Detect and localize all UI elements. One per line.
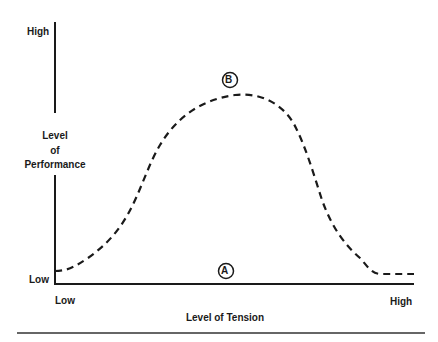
performance-curve [55, 95, 414, 274]
x-tick-high: High [390, 296, 412, 307]
y-tick-low: Low [29, 274, 49, 285]
y-tick-high: High [27, 26, 49, 37]
y-axis-label-line2: of [15, 145, 95, 156]
x-axis-label: Level of Tension [160, 312, 290, 323]
marker-a-label: A [221, 265, 231, 276]
x-tick-low: Low [55, 295, 75, 306]
y-axis-label-line1: Level [15, 130, 95, 141]
marker-b-label: B [225, 74, 235, 85]
y-axis-label-line3: Performance [15, 159, 95, 170]
chart-canvas [0, 0, 438, 342]
